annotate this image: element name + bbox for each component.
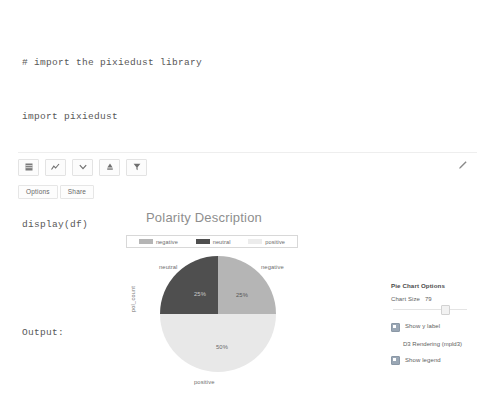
chevron-down-icon-button[interactable] [72, 159, 93, 176]
chart-size-label: Chart Size [391, 296, 420, 302]
filter-icon-button[interactable] [126, 159, 147, 176]
legend-swatch-neutral [196, 239, 210, 244]
d3-rendering-row[interactable]: D3 Rendering (mpld3) [391, 340, 481, 348]
edit-icon-button[interactable] [457, 159, 469, 171]
download-icon [106, 163, 114, 171]
chevron-down-icon [79, 164, 87, 170]
download-icon-button[interactable] [99, 159, 120, 176]
pie-percent-negative: 25% [236, 292, 248, 298]
legend-swatch-positive [248, 239, 262, 244]
chart-container: Polarity Description negative neutral po… [18, 210, 477, 395]
chart-size-value: 79 [425, 296, 432, 302]
filter-icon [133, 163, 141, 171]
pie-slice-positive [160, 314, 276, 372]
pie-chart-options-panel: Pie Chart Options Chart Size 79 Show y l… [391, 282, 481, 373]
chart-size-slider[interactable] [393, 305, 467, 314]
code-line: import pixiedust [22, 108, 442, 126]
show-legend-row[interactable]: Show legend [391, 356, 481, 366]
show-legend-text: Show legend [405, 356, 441, 364]
slider-track [393, 309, 467, 310]
show-y-label-checkbox[interactable] [391, 323, 400, 332]
chart-size-row: Chart Size 79 [391, 296, 481, 302]
chart-subbar: Options Share [18, 184, 477, 200]
pie-category-neutral: neutral [159, 264, 177, 270]
show-y-label-row[interactable]: Show y label [391, 322, 481, 332]
chart-title: Polarity Description [146, 210, 262, 225]
y-axis-label: pol_count [130, 286, 136, 312]
legend-item-positive: positive [248, 239, 285, 245]
legend-item-negative: negative [139, 239, 178, 245]
pie-percent-positive: 50% [216, 344, 228, 350]
pencil-icon [458, 156, 468, 174]
chart-icon-button[interactable] [45, 159, 66, 176]
pie-percent-neutral: 25% [194, 291, 206, 297]
chart-legend: negative neutral positive [126, 235, 298, 248]
pie-category-positive: positive [194, 379, 214, 385]
legend-swatch-negative [139, 239, 153, 244]
legend-label-neutral: neutral [213, 239, 231, 245]
legend-label-negative: negative [156, 239, 178, 245]
options-panel-title: Pie Chart Options [391, 282, 481, 289]
pie-chart-svg [158, 254, 278, 374]
d3-rendering-text: D3 Rendering (mpld3) [403, 340, 462, 348]
show-y-label-text: Show y label [405, 322, 440, 330]
legend-item-neutral: neutral [196, 239, 231, 245]
legend-label-positive: positive [265, 239, 285, 245]
pixiedust-widget: Options Share Polarity Description negat… [18, 152, 477, 391]
slider-thumb[interactable] [441, 305, 450, 315]
pie-plot-area: pol_count neutral negative positive 25% … [18, 252, 388, 395]
share-button[interactable]: Share [60, 185, 94, 199]
pie-category-negative: negative [261, 264, 284, 270]
table-icon-button[interactable] [18, 159, 39, 176]
chart-toolbar [18, 153, 477, 178]
options-button[interactable]: Options [18, 185, 58, 199]
table-icon [25, 163, 33, 171]
chart-icon [51, 163, 60, 171]
code-line: # import the pixiedust library [22, 54, 442, 72]
show-legend-checkbox[interactable] [391, 356, 400, 365]
toolbar-button-group [18, 159, 153, 176]
